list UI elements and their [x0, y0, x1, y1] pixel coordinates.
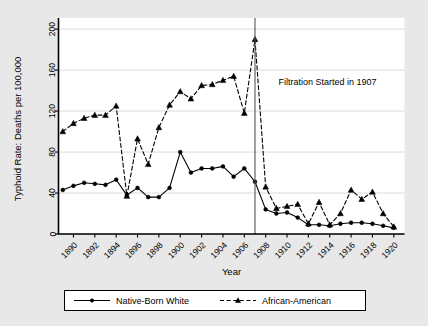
data-point	[114, 178, 118, 182]
data-point	[157, 195, 161, 199]
y-tick-label: 200	[48, 22, 58, 36]
data-point	[104, 183, 108, 187]
data-point	[221, 164, 225, 168]
data-point	[189, 171, 193, 175]
data-point	[296, 216, 300, 220]
y-tick-label: 80	[48, 147, 58, 157]
data-point	[381, 224, 385, 228]
data-point	[82, 181, 86, 185]
y-tick-label: 120	[48, 104, 58, 118]
y-tick-label: 160	[48, 63, 58, 77]
data-point	[200, 167, 204, 171]
typhoid-rate-line-chart: 0408012016020018901892189418961898190019…	[0, 0, 428, 326]
filtration-annotation: Filtration Started in 1907	[278, 77, 376, 87]
chart-annotations: Filtration Started in 1907	[278, 77, 376, 87]
data-point	[93, 182, 97, 186]
chart-figure: 0408012016020018901892189418961898190019…	[0, 0, 428, 326]
data-point	[136, 186, 140, 190]
data-point	[349, 221, 353, 225]
legend-marker-circle-icon	[90, 299, 94, 303]
data-point	[360, 221, 364, 225]
data-point	[168, 186, 172, 190]
data-point	[242, 167, 246, 171]
data-point	[178, 150, 182, 154]
y-tick-label: 40	[48, 188, 58, 198]
plot-background	[59, 18, 405, 234]
data-point	[264, 208, 268, 212]
data-point	[232, 175, 236, 179]
chart-legend: Native-Born WhiteAfrican-American	[65, 291, 366, 311]
data-point	[317, 223, 321, 227]
data-point	[371, 222, 375, 226]
data-point	[274, 212, 278, 216]
data-point	[285, 211, 289, 215]
data-point	[72, 184, 76, 188]
data-point	[339, 222, 343, 226]
y-tick-label: 0	[48, 231, 58, 236]
legend-label: African-American	[262, 296, 331, 306]
data-point	[61, 188, 65, 192]
y-axis-title: Typhoid Rate: Deaths per 100,000	[12, 57, 23, 202]
legend-label: Native-Born White	[116, 296, 189, 306]
x-axis-title: Year	[222, 266, 241, 277]
data-point	[146, 195, 150, 199]
data-point	[210, 167, 214, 171]
